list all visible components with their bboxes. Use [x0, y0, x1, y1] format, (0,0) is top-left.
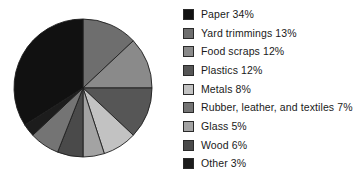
- pie-plot-area: [0, 0, 172, 175]
- legend-item[interactable]: Wood 6%: [183, 136, 344, 155]
- legend-item[interactable]: Other 3%: [183, 155, 344, 174]
- legend-swatch-icon: [183, 28, 194, 39]
- legend-swatch-icon: [183, 102, 194, 113]
- legend-item-label: Yard trimmings 13%: [201, 28, 297, 39]
- legend-swatch-icon: [183, 158, 194, 169]
- legend-swatch-icon: [183, 121, 194, 132]
- chart-legend: Paper 34%Yard trimmings 13%Food scraps 1…: [183, 5, 344, 173]
- legend-item[interactable]: Metals 8%: [183, 80, 344, 99]
- legend-item[interactable]: Glass 5%: [183, 117, 344, 136]
- legend-item-label: Rubber, leather, and textiles 7%: [201, 102, 353, 113]
- legend-item-label: Plastics 12%: [201, 65, 262, 76]
- legend-item[interactable]: Food scraps 12%: [183, 42, 344, 61]
- legend-item-label: Food scraps 12%: [201, 46, 284, 57]
- legend-item[interactable]: Rubber, leather, and textiles 7%: [183, 98, 344, 117]
- legend-item-label: Other 3%: [201, 158, 246, 169]
- pie-slice-group: [14, 19, 152, 157]
- legend-item-label: Wood 6%: [201, 140, 247, 151]
- legend-item-label: Glass 5%: [201, 121, 247, 132]
- legend-item[interactable]: Plastics 12%: [183, 61, 344, 80]
- legend-item-label: Metals 8%: [201, 84, 251, 95]
- legend-swatch-icon: [183, 84, 194, 95]
- legend-swatch-icon: [183, 140, 194, 151]
- legend-swatch-icon: [183, 46, 194, 57]
- legend-swatch-icon: [183, 65, 194, 76]
- legend-item[interactable]: Paper 34%: [183, 5, 344, 24]
- legend-item-label: Paper 34%: [201, 9, 254, 20]
- pie-svg: [0, 0, 172, 175]
- legend-item[interactable]: Yard trimmings 13%: [183, 24, 344, 43]
- legend-swatch-icon: [183, 9, 194, 20]
